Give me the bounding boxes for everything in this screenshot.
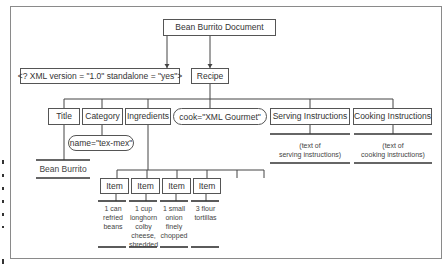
item-3-line: onion [159,213,189,222]
recipe-node: Recipe [191,68,229,84]
item-node-3: Item [162,178,191,194]
root-node: Bean Burrito Document [163,19,276,36]
category-node: Category [82,108,123,125]
item-text-2: 1 cup longhorn colby cheese, shredded [128,204,159,249]
title-node: Title [48,108,80,125]
serving-instructions-node: Serving Instructions [270,108,350,125]
item-1-line: refried [98,213,128,222]
item-3-line: chopped [159,231,189,240]
item-4-line: tortillas [190,213,221,222]
category-attribute-oval: name="tex-mex" [68,135,134,151]
item-node-2: Item [131,178,160,194]
title-text: Bean Burrito [36,164,90,174]
item-text-1: 1 can refried beans [98,204,128,231]
serving-text: (text of serving instructions) [270,141,350,159]
ingredients-node: Ingredients [125,108,171,125]
item-1-line: beans [98,222,128,231]
item-2-line: colby [128,222,159,231]
item-3-line: 1 small [159,204,189,213]
item-2-line: cheese, [128,231,159,240]
xml-declaration-node: <? XML version = "1.0" standalone = "yes… [20,68,180,84]
serving-text-line-1: (text of [270,141,350,150]
cook-attribute-oval: cook="XML Gourmet" [173,108,267,125]
item-2-line: 1 cup [128,204,159,213]
cooking-text-line-1: (text of [354,141,432,150]
item-3-line: finely [159,222,189,231]
item-2-line: longhorn [128,213,159,222]
item-node-4: Item [193,178,221,194]
item-4-line: 3 flour [190,204,221,213]
connector-lines [0,0,444,267]
cooking-text: (text of cooking instructions) [354,141,432,159]
cooking-text-line-2: cooking instructions) [354,150,432,159]
item-1-line: 1 can [98,204,128,213]
item-node-1: Item [100,178,129,194]
item-2-line: shredded [128,240,159,249]
cooking-instructions-node: Cooking Instructions [353,108,432,125]
serving-text-line-2: serving instructions) [270,150,350,159]
item-text-3: 1 small onion finely chopped [159,204,189,240]
item-text-4: 3 flour tortillas [190,204,221,222]
